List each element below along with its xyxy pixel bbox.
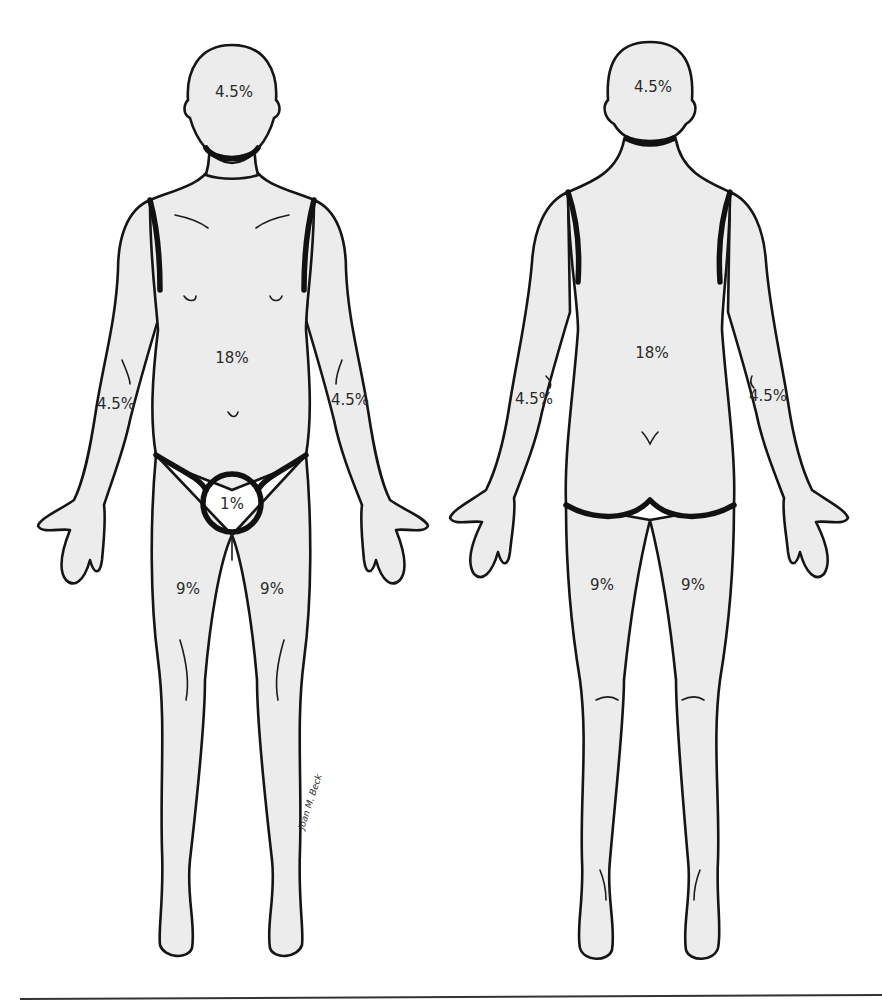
front-torso: [150, 168, 314, 490]
front-left-arm-label: 4.5%: [331, 391, 369, 409]
front-trunk-label: 18%: [215, 349, 248, 367]
back-torso: [566, 140, 735, 516]
back-trunk-label: 18%: [635, 344, 668, 362]
back-figure: 4.5% 18% 4.5% 4.5% 9% 9%: [450, 42, 848, 959]
back-head-label: 4.5%: [634, 78, 672, 96]
front-genitalia-label: 1%: [220, 495, 244, 513]
back-left-arm: [450, 192, 570, 577]
back-right-arm: [728, 192, 848, 577]
front-head: [185, 45, 280, 163]
bottom-border-line: [20, 995, 882, 999]
back-left-arm-label: 4.5%: [515, 390, 553, 408]
front-right-leg-label: 9%: [176, 580, 200, 598]
front-left-leg-label: 9%: [260, 580, 284, 598]
front-figure: 4.5% 18% 4.5% 4.5% 1% 9% 9% Joan M. Beck: [38, 45, 428, 956]
front-head-label: 4.5%: [215, 83, 253, 101]
back-right-leg-label: 9%: [681, 576, 705, 594]
back-right-arm-label: 4.5%: [749, 387, 787, 405]
back-left-leg-label: 9%: [590, 576, 614, 594]
back-right-leg: [650, 505, 734, 959]
front-right-arm: [38, 200, 158, 583]
rule-of-nines-diagram: 4.5% 18% 4.5% 4.5% 1% 9% 9% Joan M. Beck: [0, 0, 882, 1001]
back-left-leg: [566, 505, 650, 959]
front-right-arm-label: 4.5%: [97, 395, 135, 413]
